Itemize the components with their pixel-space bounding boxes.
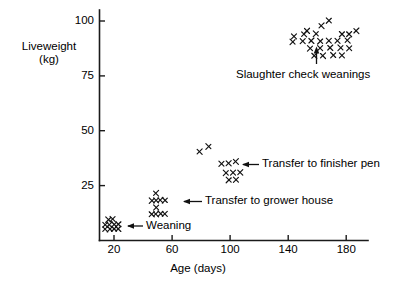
finisher-arrow-head [242,162,249,168]
data-point [233,159,238,165]
y-axis-title-line1: Liveweight [6,40,92,53]
data-point [116,226,121,231]
data-point [231,170,236,175]
y-tick-label-25: 25 [56,180,94,192]
data-point [335,38,340,43]
y-axis-title-line2: (kg) [6,53,92,66]
data-point [238,170,243,175]
data-point [219,161,224,166]
y-tick-label-75: 75 [56,70,94,82]
annotation-weaning: Weaning [146,220,191,232]
axis-ticks [100,21,347,241]
scatter-chart: Liveweight (kg) Age (days) 2550751002060… [0,0,396,283]
data-point [326,38,331,43]
data-point [226,161,231,166]
data-point [319,23,324,29]
x-tick-label-180: 180 [321,244,371,256]
data-point [158,197,163,202]
data-point [300,39,305,44]
x-axis-title: Age (days) [0,262,396,275]
weaning-arrow-head [127,223,134,229]
annotation-transfer-grower: Transfer to grower house [205,195,333,207]
annotation-slaughter: Slaughter check weanings [236,69,370,81]
data-point [326,18,331,23]
data-point [154,205,159,210]
x-tick-label-100: 100 [205,244,255,256]
data-point [154,190,159,196]
x-tick-label-140: 140 [263,244,313,256]
data-point [290,39,295,44]
data-point [354,28,359,34]
data-point [331,52,336,57]
data-point [302,31,307,36]
data-point [345,37,350,43]
data-point [197,149,202,154]
data-point [339,53,344,58]
data-point [223,170,228,175]
data-point [328,45,333,50]
data-point [313,31,318,37]
data-point [291,34,296,39]
data-point [347,46,352,51]
grower-arrow-head [183,199,190,205]
data-point [206,144,211,150]
data-point [318,46,323,51]
data-point [110,216,115,221]
data-point [103,226,108,231]
x-tick-label-60: 60 [147,244,197,256]
y-axis-title: Liveweight (kg) [6,40,92,66]
data-point [309,38,314,43]
data-point [347,32,352,37]
x-tick-label-20: 20 [89,244,139,256]
data-point [162,211,167,216]
annotation-transfer-finisher: Transfer to finisher pen [262,158,380,170]
y-tick-label-100: 100 [56,15,94,27]
y-tick-label-50: 50 [56,125,94,137]
data-point [226,177,231,183]
data-point [318,38,323,44]
data-point [162,197,167,203]
data-point [339,32,344,37]
data-point [307,46,312,51]
data-point [233,177,238,182]
data-point [321,53,326,59]
data-point [338,45,343,51]
